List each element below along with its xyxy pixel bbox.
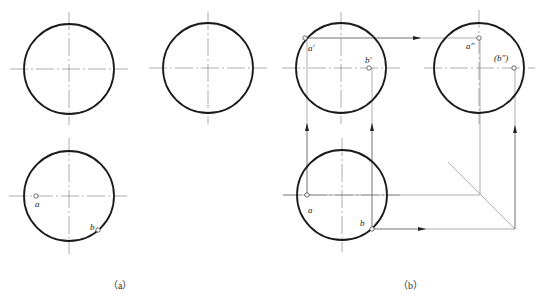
point-a-top bbox=[305, 193, 309, 197]
side-view-b: a" (b") bbox=[424, 10, 535, 124]
projection-diagram: a b （a） bbox=[0, 0, 537, 300]
front-view-b: a' b' bbox=[282, 12, 400, 124]
side-view-a bbox=[149, 12, 267, 124]
point-a bbox=[34, 194, 38, 198]
caption-a: （a） bbox=[108, 280, 132, 291]
front-view-a bbox=[10, 12, 128, 125]
panel-a: a b （a） bbox=[9, 12, 267, 291]
point-b-double-prime bbox=[512, 66, 516, 70]
label-a-top: a bbox=[308, 205, 313, 215]
projection-lines bbox=[283, 38, 515, 229]
label-b-prime: b' bbox=[365, 55, 373, 65]
caption-b: （b） bbox=[398, 280, 423, 291]
point-b-top bbox=[370, 227, 374, 231]
top-view-a: a b bbox=[9, 138, 127, 254]
point-b-prime bbox=[367, 66, 371, 70]
label-b-top: b bbox=[360, 218, 365, 228]
label-b: b bbox=[90, 222, 95, 232]
point-a-double-prime bbox=[477, 36, 481, 40]
label-a-double-prime: a" bbox=[466, 41, 475, 51]
point-b bbox=[96, 228, 100, 232]
top-view-b: a b bbox=[283, 138, 400, 252]
panel-b: a' b' a" (b") a b （b） bbox=[282, 10, 535, 291]
point-a-prime bbox=[303, 36, 307, 40]
label-a-prime: a' bbox=[308, 43, 316, 53]
label-b-double-prime: (b") bbox=[494, 53, 508, 63]
label-a: a bbox=[35, 199, 40, 209]
